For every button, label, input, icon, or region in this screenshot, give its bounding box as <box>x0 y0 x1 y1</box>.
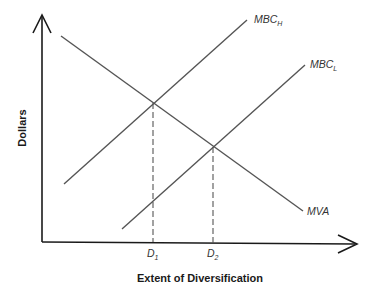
mva-label: MVA <box>307 205 329 217</box>
mbc-h-curve <box>64 20 247 184</box>
mbc-h-label: MBCH <box>254 13 283 27</box>
d2-label: D2 <box>207 247 219 261</box>
x-axis-title: Extent of Diversification <box>137 272 263 284</box>
mbc-l-label: MBCL <box>310 58 337 72</box>
mva-curve <box>61 36 303 211</box>
x-axis <box>42 235 357 253</box>
d1-label: D1 <box>147 247 159 261</box>
diagram-canvas: MBCH MBCL MVA D1 D2 Extent of Diversific… <box>0 0 379 291</box>
y-axis <box>33 15 51 242</box>
x-axis-line <box>42 242 355 244</box>
y-axis-title: Dollars <box>16 109 28 146</box>
